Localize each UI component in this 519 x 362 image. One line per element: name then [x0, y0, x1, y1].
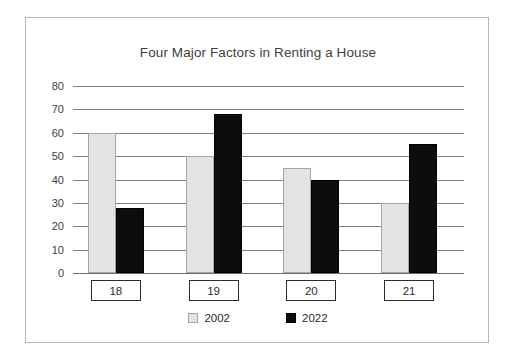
plot-area: 01020304050607080 — [73, 86, 464, 273]
y-axis-tick-label-70: 70 — [52, 103, 64, 115]
bar-2002-19 — [186, 156, 214, 273]
gridline-40 — [73, 180, 464, 181]
bar-2022-18 — [116, 208, 144, 273]
y-axis-tick-label-20: 20 — [52, 220, 64, 232]
bar-2002-18 — [88, 133, 116, 273]
bar-2002-21 — [381, 203, 409, 273]
gridline-0 — [73, 273, 464, 274]
y-axis-tick-label-80: 80 — [52, 80, 64, 92]
legend-label-2002: 2002 — [204, 312, 230, 324]
legend-item-2022: 2022 — [286, 312, 328, 324]
legend-label-2022: 2022 — [302, 312, 328, 324]
y-axis-tick-label-50: 50 — [52, 150, 64, 162]
x-axis-category-box-18: 18 — [91, 280, 141, 301]
y-axis-tick-label-0: 0 — [58, 267, 64, 279]
bar-2022-20 — [311, 180, 339, 274]
x-axis-category-box-21: 21 — [384, 280, 434, 301]
gridline-70 — [73, 109, 464, 110]
bar-2022-21 — [409, 144, 437, 273]
gridline-50 — [73, 156, 464, 157]
gridline-60 — [73, 133, 464, 134]
legend-swatch-2022-icon — [286, 313, 296, 323]
y-axis-tick-label-10: 10 — [52, 244, 64, 256]
chart-legend: 20022022 — [26, 312, 490, 324]
bar-2002-20 — [283, 168, 311, 273]
x-axis-category-box-20: 20 — [286, 280, 336, 301]
chart-title: Four Major Factors in Renting a House — [26, 45, 490, 60]
y-axis-tick-label-40: 40 — [52, 174, 64, 186]
gridline-80 — [73, 86, 464, 87]
legend-item-2002: 2002 — [188, 312, 230, 324]
bar-2022-19 — [214, 114, 242, 273]
y-axis-tick-label-60: 60 — [52, 127, 64, 139]
chart-figure-frame: Four Major Factors in Renting a House 01… — [25, 17, 489, 343]
x-axis-category-box-19: 19 — [189, 280, 239, 301]
y-axis-tick-label-30: 30 — [52, 197, 64, 209]
legend-swatch-2002-icon — [188, 313, 198, 323]
